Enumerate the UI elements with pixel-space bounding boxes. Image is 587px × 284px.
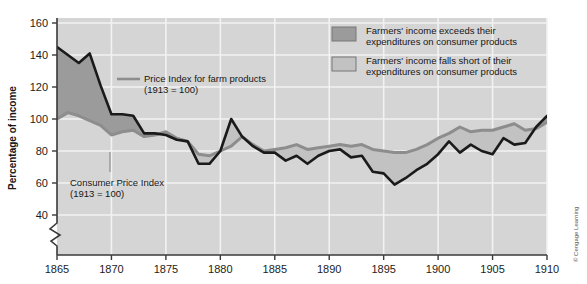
cpi-label-line1: Consumer Price Index bbox=[70, 177, 164, 188]
y-axis-label: Percentage of income bbox=[7, 86, 18, 190]
legend-swatch-income-exceeds bbox=[332, 27, 356, 41]
x-tick-label: 1910 bbox=[535, 263, 559, 275]
x-tick-label: 1905 bbox=[480, 263, 504, 275]
legend-label-exceeds-line1: Farmers' income exceeds their bbox=[366, 25, 496, 36]
x-tick-label: 1890 bbox=[317, 263, 341, 275]
x-tick-label: 1900 bbox=[426, 263, 450, 275]
x-tick-label: 1865 bbox=[45, 263, 69, 275]
legend-swatch-income-falls-short bbox=[332, 57, 356, 71]
y-tick-label: 160 bbox=[30, 17, 48, 29]
y-tick-label: 80 bbox=[36, 145, 48, 157]
chart-svg: 406080100120140160 186518701875188018851… bbox=[0, 0, 587, 284]
copyright-credit: © Cengage Learning bbox=[573, 207, 579, 262]
x-tick-label: 1875 bbox=[154, 263, 178, 275]
y-tick-label: 120 bbox=[30, 81, 48, 93]
legend-label-short-line2: expenditures on consumer products bbox=[366, 66, 517, 77]
y-tick-label: 60 bbox=[36, 177, 48, 189]
y-tick-label: 40 bbox=[36, 209, 48, 221]
legend-label-exceeds-line2: expenditures on consumer products bbox=[366, 36, 517, 47]
x-tick-label: 1885 bbox=[263, 263, 287, 275]
legend-label-short-line1: Farmers' income falls short of their bbox=[366, 55, 511, 66]
y-tick-label: 140 bbox=[30, 49, 48, 61]
farm-index-label-line1: Price Index for farm products bbox=[144, 73, 266, 84]
x-tick-label: 1880 bbox=[208, 263, 232, 275]
cpi-label-line2: (1913 = 100) bbox=[70, 188, 124, 199]
y-tick-label: 100 bbox=[30, 113, 48, 125]
figure-container: 406080100120140160 186518701875188018851… bbox=[0, 0, 587, 284]
x-tick-label: 1870 bbox=[99, 263, 123, 275]
farm-index-label-line2: (1913 = 100) bbox=[144, 84, 198, 95]
x-tick-label: 1895 bbox=[371, 263, 395, 275]
